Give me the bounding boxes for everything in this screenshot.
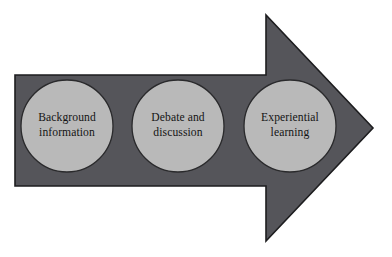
process-arrow-diagram: Background information Debate and discus… — [0, 0, 392, 257]
stage-label-debate-and-discussion: Debate and discussion — [130, 111, 226, 140]
stage-label-line-2: information — [19, 126, 115, 141]
stage-label-line-1: Background — [19, 111, 115, 126]
stage-label-line-1: Experiential — [242, 111, 338, 126]
stage-label-background-information: Background information — [19, 111, 115, 140]
stage-label-experiential-learning: Experiential learning — [242, 111, 338, 140]
stage-label-line-1: Debate and — [130, 111, 226, 126]
stage-label-line-2: discussion — [130, 126, 226, 141]
stage-label-line-2: learning — [242, 126, 338, 141]
